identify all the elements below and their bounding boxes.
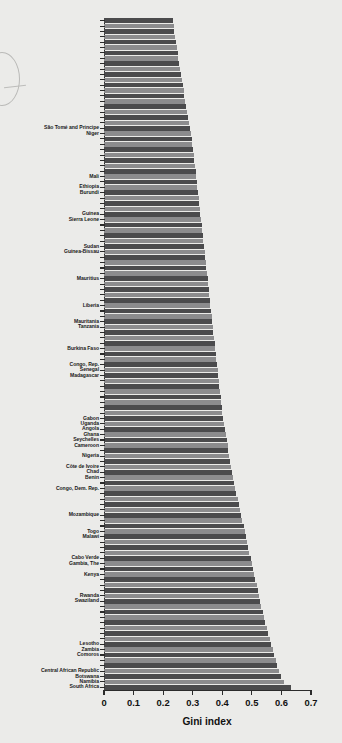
bar <box>104 438 227 443</box>
bar <box>104 94 184 99</box>
y-axis-tick <box>100 611 105 612</box>
y-axis-tick <box>100 439 105 440</box>
y-axis-tick <box>100 181 105 182</box>
y-axis-tick <box>100 128 105 129</box>
bar <box>104 588 258 593</box>
x-tick-label: 0 <box>101 697 106 708</box>
bar <box>104 416 223 421</box>
page-edge-artifact-arc <box>0 52 20 106</box>
bar <box>104 658 276 663</box>
y-axis-label-mauritius: Mauritius <box>77 276 99 281</box>
y-axis-tick <box>100 585 105 586</box>
y-axis-label-swaziland: Swaziland <box>75 598 99 603</box>
bar <box>104 346 215 351</box>
y-axis-tick <box>100 654 105 655</box>
y-axis-tick <box>100 294 105 295</box>
bar <box>104 545 248 550</box>
bar <box>104 271 207 276</box>
x-tick-label: 0.2 <box>157 697 170 708</box>
y-axis-tick <box>100 622 105 623</box>
bar <box>104 513 241 518</box>
y-axis-label-burkina-faso: Burkina Faso <box>67 346 99 351</box>
bar <box>104 201 199 206</box>
y-axis-label-burundi: Burundi <box>80 190 99 195</box>
y-axis-tick <box>100 171 105 172</box>
bar <box>104 40 176 45</box>
bar <box>104 266 206 271</box>
y-axis-tick <box>100 235 105 236</box>
bar <box>104 131 191 136</box>
y-axis-tick <box>100 477 105 478</box>
bar <box>104 282 208 287</box>
bar <box>104 88 184 93</box>
bar <box>104 459 230 464</box>
y-axis-tick <box>100 327 105 328</box>
bar <box>104 470 232 475</box>
y-axis-tick <box>100 321 105 322</box>
bar <box>104 615 264 620</box>
y-axis-tick <box>100 552 105 553</box>
bar <box>104 287 209 292</box>
x-tick-label: 0.6 <box>275 697 288 708</box>
y-axis-tick <box>100 106 105 107</box>
y-axis-tick <box>100 251 105 252</box>
bar <box>104 362 217 367</box>
y-axis-tick <box>100 165 105 166</box>
bar <box>104 174 196 179</box>
bar <box>104 115 188 120</box>
bar <box>104 540 247 545</box>
y-axis-tick <box>100 461 105 462</box>
x-tick-mark <box>103 690 104 695</box>
y-axis-tick <box>100 278 105 279</box>
bar <box>104 572 254 577</box>
bar <box>104 534 246 539</box>
bar <box>104 486 235 491</box>
bar <box>104 685 291 690</box>
x-tick-mark <box>192 690 193 695</box>
bar <box>104 481 234 486</box>
y-axis-tick <box>100 633 105 634</box>
bar <box>104 72 181 77</box>
y-axis-tick <box>100 671 105 672</box>
y-axis-tick <box>100 445 105 446</box>
bar <box>104 551 249 556</box>
y-axis-tick <box>100 638 105 639</box>
y-axis-tick <box>100 370 105 371</box>
y-axis-tick <box>100 214 105 215</box>
bar <box>104 293 209 298</box>
y-axis-tick <box>100 353 105 354</box>
y-axis-tick <box>100 525 105 526</box>
bar <box>104 121 189 126</box>
bar <box>104 443 228 448</box>
bar <box>104 61 179 66</box>
bar <box>104 454 229 459</box>
y-axis-tick <box>100 413 105 414</box>
bar <box>104 674 281 679</box>
y-axis-tick <box>100 246 105 247</box>
y-axis-tick <box>100 396 105 397</box>
x-tick-label: 0.1 <box>127 697 140 708</box>
y-axis-tick <box>100 31 105 32</box>
y-axis-tick <box>100 262 105 263</box>
y-axis-tick <box>100 36 105 37</box>
y-axis-tick <box>100 386 105 387</box>
bar <box>104 411 222 416</box>
y-axis-tick <box>100 224 105 225</box>
y-axis-tick <box>100 520 105 521</box>
y-axis-tick <box>100 310 105 311</box>
y-axis-tick <box>100 20 105 21</box>
y-axis-tick <box>100 499 105 500</box>
y-axis-tick <box>100 337 105 338</box>
x-axis-title: Gini index <box>0 716 342 727</box>
y-axis-tick <box>100 230 105 231</box>
x-tick-mark <box>163 690 164 695</box>
bar <box>104 180 197 185</box>
bar <box>104 384 219 389</box>
y-axis-tick <box>100 488 105 489</box>
y-axis-tick <box>100 117 105 118</box>
y-axis-tick <box>100 176 105 177</box>
y-axis-label-tanzania: Tanzania <box>78 324 99 329</box>
bar <box>104 637 270 642</box>
y-axis-tick <box>100 192 105 193</box>
bar <box>104 244 204 249</box>
